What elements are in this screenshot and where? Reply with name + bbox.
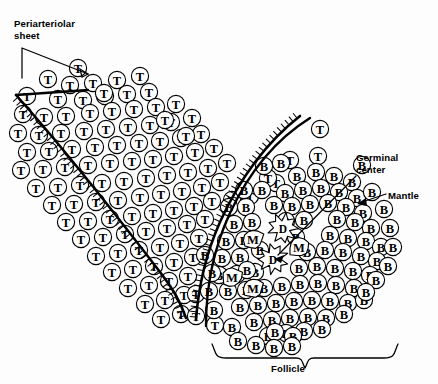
- cell-t: T: [309, 147, 326, 164]
- cell-b: B: [326, 259, 343, 276]
- cell-t: T: [131, 67, 148, 84]
- cell-t: T: [81, 104, 98, 121]
- cell-t: T: [97, 120, 114, 137]
- cell-b: B: [273, 277, 290, 294]
- cell-t: T: [144, 204, 161, 221]
- cell-t: T: [86, 138, 103, 155]
- cell-t: T: [95, 84, 112, 101]
- cell-t: T: [123, 152, 140, 169]
- cell-b: B: [313, 320, 330, 337]
- cell-t: T: [203, 192, 220, 209]
- cell-b: B: [308, 257, 325, 274]
- cell-t: T: [103, 102, 120, 119]
- lymph-node-diagram: TTTTTTTTTTTTTTTTTTTTTTTTTTTTTTTTTTTTTTTT…: [0, 0, 438, 384]
- cell-b: B: [321, 292, 338, 309]
- cell-b: B: [357, 283, 374, 300]
- label-periarteriolar-sheet: Periarteriolar sheet: [14, 18, 75, 41]
- cell-t: T: [87, 247, 104, 264]
- cell-b: B: [272, 154, 289, 171]
- cell-t: T: [49, 178, 66, 195]
- cell-t: T: [9, 124, 26, 141]
- cell-t: T: [119, 279, 136, 296]
- cell-b: B: [245, 313, 262, 330]
- cell-b: B: [384, 238, 401, 255]
- cell-t: T: [27, 179, 44, 196]
- cell-t: T: [179, 267, 196, 284]
- cell-t: T: [75, 122, 92, 139]
- cell-t: T: [137, 169, 154, 186]
- cell-b: B: [285, 292, 302, 309]
- cell-t: T: [136, 295, 153, 312]
- cell-t: T: [125, 100, 142, 117]
- cell-b: B: [309, 274, 326, 291]
- cell-t: T: [115, 172, 132, 189]
- cell-t: T: [192, 125, 209, 142]
- cell-b: B: [265, 339, 282, 356]
- cell-t: T: [152, 310, 169, 327]
- cell-t: T: [151, 132, 168, 149]
- cell-t: T: [131, 188, 148, 205]
- cell-t: T: [177, 127, 194, 144]
- cell-b: B: [290, 259, 307, 276]
- cell-b: B: [327, 276, 344, 293]
- cell-b: B: [301, 195, 318, 212]
- cell-b: B: [295, 211, 312, 228]
- cell-b: B: [291, 275, 308, 292]
- cell-b: B: [283, 337, 300, 354]
- cell-t: T: [94, 228, 111, 245]
- cell-b: B: [307, 163, 324, 180]
- cell-t: T: [158, 166, 175, 183]
- label-follicle: Follicle: [271, 363, 305, 375]
- cell-t: T: [35, 108, 52, 125]
- cell-b: B: [346, 213, 363, 230]
- cell-t: T: [130, 134, 147, 151]
- cell-t: T: [140, 276, 157, 293]
- cell-t: T: [65, 195, 82, 212]
- cell-t: T: [103, 263, 120, 280]
- cell-b: B: [375, 200, 392, 217]
- cell-t: T: [211, 173, 228, 190]
- cell-b: B: [303, 291, 320, 308]
- cell-t: T: [151, 238, 168, 255]
- cell-t: T: [144, 150, 161, 167]
- cell-b: B: [379, 257, 396, 274]
- cell-b: B: [328, 210, 345, 227]
- cell-t: T: [72, 230, 89, 247]
- cell-b: B: [335, 305, 352, 322]
- cell-t: T: [165, 253, 182, 270]
- cell-b: B: [267, 294, 284, 311]
- cell-b: B: [249, 296, 266, 313]
- cell-t: T: [101, 154, 118, 171]
- label-germinal-center: Germinal center: [356, 152, 398, 175]
- cell-t: T: [57, 107, 74, 124]
- cell-t: T: [79, 212, 96, 229]
- cell-b: B: [281, 309, 298, 326]
- cell-b: B: [319, 194, 336, 211]
- cell-t: T: [18, 143, 35, 160]
- cell-t: T: [34, 160, 51, 177]
- cell-t: T: [205, 139, 222, 156]
- cell-b: B: [266, 323, 283, 340]
- cell-b: B: [253, 181, 270, 198]
- cell-t: T: [39, 70, 56, 87]
- cell-b: B: [352, 247, 369, 264]
- cell-t: T: [43, 196, 60, 213]
- cell-t: T: [12, 161, 29, 178]
- cell-b: B: [334, 243, 351, 260]
- label-mantle: Mantle: [388, 190, 419, 202]
- cell-t: T: [167, 95, 184, 112]
- diagram-canvas: TTTTTTTTTTTTTTTTTTTTTTTTTTTTTTTTTTTTTTTT…: [0, 0, 438, 384]
- cell-t: T: [179, 163, 196, 180]
- cell-b: B: [243, 213, 260, 230]
- cell-b: B: [344, 262, 361, 279]
- cell-t: T: [123, 207, 140, 224]
- cell-t: T: [124, 260, 141, 277]
- cell-t: T: [218, 154, 235, 171]
- cell-t: T: [152, 185, 169, 202]
- cell-b: B: [229, 332, 246, 349]
- cell-t: T: [137, 222, 154, 239]
- cell-t: T: [173, 182, 190, 199]
- cell-t: T: [196, 210, 213, 227]
- cell-b: B: [325, 167, 342, 184]
- cell-t: T: [40, 142, 57, 159]
